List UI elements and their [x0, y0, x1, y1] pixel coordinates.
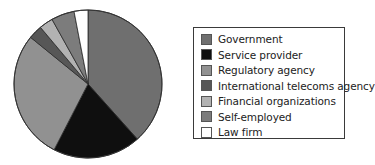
legend-label: Self-employed — [218, 111, 292, 123]
legend-item-financial-organizations: Financial organizations — [201, 94, 336, 108]
legend-label: International telecoms agency — [218, 80, 375, 92]
legend-item-law-firm: Law firm — [201, 125, 262, 139]
legend: Government Service provider Regulatory a… — [193, 27, 345, 139]
legend-label: Regulatory agency — [218, 64, 315, 76]
legend-item-international-telecoms-agency: International telecoms agency — [201, 79, 375, 93]
legend-swatch — [201, 80, 212, 91]
legend-swatch — [201, 34, 212, 45]
legend-label: Law firm — [218, 126, 262, 138]
legend-label: Service provider — [218, 49, 302, 61]
legend-swatch — [201, 127, 212, 138]
legend-item-self-employed: Self-employed — [201, 110, 292, 124]
legend-item-regulatory-agency: Regulatory agency — [201, 63, 315, 77]
legend-swatch — [201, 49, 212, 60]
legend-swatch — [201, 96, 212, 107]
legend-swatch — [201, 65, 212, 76]
legend-swatch — [201, 111, 212, 122]
legend-label: Government — [218, 33, 282, 45]
pie-chart — [0, 0, 180, 165]
legend-item-government: Government — [201, 32, 282, 46]
legend-item-service-provider: Service provider — [201, 48, 302, 62]
legend-label: Financial organizations — [218, 95, 336, 107]
